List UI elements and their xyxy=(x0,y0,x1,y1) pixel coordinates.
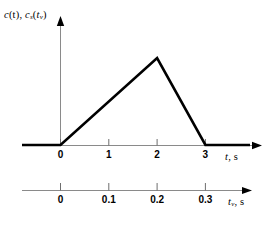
y-axis-label: c(t), cs(tv) xyxy=(4,9,47,21)
secondary-tick-label-2: 0.2 xyxy=(150,194,164,205)
secondary-x-axis-title: tv, s xyxy=(228,196,244,208)
secondary-x-axis-ticks xyxy=(61,183,206,191)
primary-tick-label-1: 1 xyxy=(106,149,112,160)
primary-x-axis-title-rest: , s xyxy=(228,151,238,162)
secondary-x-axis-arrowhead xyxy=(242,187,252,194)
secondary-tick-label-0: 0 xyxy=(58,194,64,205)
y-axis-label-cs-paren-close: ) xyxy=(43,9,47,20)
primary-tick-label-0: 0 xyxy=(58,149,64,160)
primary-tick-label-2: 2 xyxy=(154,149,160,160)
secondary-tick-label-3: 0.3 xyxy=(198,194,212,205)
signal-trace-triangular-pulse xyxy=(22,58,250,145)
figure-container: c(t), cs(tv) 0 1 2 3 t, s 0 0.1 0.2 0.3 … xyxy=(0,0,271,227)
secondary-tick-label-1: 0.1 xyxy=(102,194,116,205)
secondary-x-axis-title-rest: , s xyxy=(234,196,244,207)
primary-x-axis-ticks xyxy=(61,139,206,146)
primary-x-axis-arrowhead xyxy=(252,142,262,149)
plot-canvas xyxy=(0,0,271,227)
primary-x-axis-title: t, s xyxy=(225,151,238,162)
y-axis-arrowhead xyxy=(57,16,64,26)
y-axis-label-c-arg: (t), xyxy=(9,9,22,20)
primary-tick-label-3: 3 xyxy=(203,149,209,160)
